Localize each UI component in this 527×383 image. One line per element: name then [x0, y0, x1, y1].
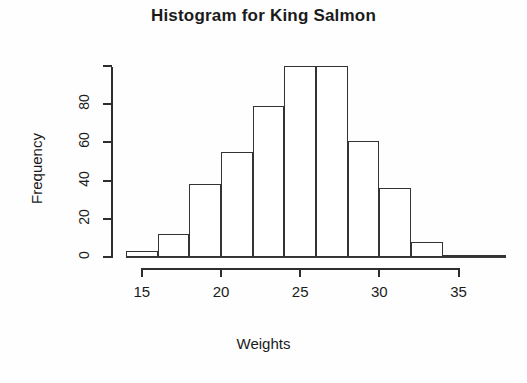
y-axis-tick-label: 80 [76, 88, 92, 116]
y-axis-tick [103, 65, 112, 67]
x-axis-tick [378, 268, 380, 277]
histogram-bar [379, 188, 411, 257]
y-axis-tick [103, 256, 112, 258]
x-axis-tick-label: 25 [280, 283, 320, 300]
y-axis-tick [103, 141, 112, 143]
histogram-bar [411, 242, 443, 257]
x-axis-tick [141, 268, 143, 277]
y-axis-tick [103, 218, 112, 220]
histogram-figure: Histogram for King Salmon Frequency 0204… [0, 0, 527, 383]
x-axis-tick-label: 30 [359, 283, 399, 300]
histogram-bar [158, 234, 190, 257]
histogram-bar [284, 66, 316, 257]
x-axis-title: Weights [0, 335, 527, 352]
y-axis-line [111, 67, 113, 258]
x-axis-tick [220, 268, 222, 277]
y-axis-tick [103, 180, 112, 182]
histogram-bar [348, 141, 380, 258]
x-axis-tick-label: 20 [201, 283, 241, 300]
y-axis-title: Frequency [28, 109, 45, 229]
y-axis-tick-label: 0 [76, 241, 92, 269]
page-title: Histogram for King Salmon [0, 6, 527, 26]
histogram-bar [474, 255, 506, 257]
y-axis-tick-label: 40 [76, 165, 92, 193]
y-axis-tick-label: 60 [76, 126, 92, 154]
histogram-bar [316, 66, 348, 257]
plot-area [126, 66, 506, 257]
x-axis-tick [458, 268, 460, 277]
histogram-bar [126, 251, 158, 257]
histogram-bar [253, 106, 285, 257]
y-axis-tick [103, 103, 112, 105]
x-axis-tick [299, 268, 301, 277]
y-axis-tick-label: 20 [76, 203, 92, 231]
histogram-bar [189, 184, 221, 257]
x-axis-tick-label: 15 [122, 283, 162, 300]
histogram-bar [221, 152, 253, 257]
histogram-bar [443, 255, 475, 257]
x-axis-tick-label: 35 [439, 283, 479, 300]
